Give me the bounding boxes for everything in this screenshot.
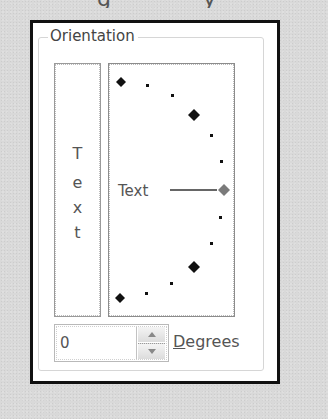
marker-neg90-icon — [115, 293, 125, 303]
degrees-decrement-button[interactable] — [138, 343, 165, 359]
orientation-group: Orientation T e x t — [38, 37, 264, 371]
marker-neg45-icon — [188, 261, 200, 273]
cropped-heading-fragment: g y — [0, 0, 328, 8]
vertical-text-letter: t — [55, 224, 100, 242]
degrees-label-mnemonic: D — [173, 332, 185, 351]
vertical-text-letter: x — [55, 199, 100, 217]
orientation-group-label: Orientation — [48, 26, 138, 46]
spin-up-arrow-icon — [148, 332, 156, 337]
dial-text-label: Text — [118, 182, 148, 200]
cropped-glyph-y: y — [203, 0, 216, 8]
marker-90-icon — [116, 77, 126, 87]
degrees-increment-button[interactable] — [138, 327, 165, 342]
degrees-label-rest: egrees — [185, 332, 239, 351]
marker-45-icon — [188, 109, 200, 121]
vertical-text-letter: T — [55, 145, 100, 163]
cropped-glyph-g: g — [97, 0, 111, 8]
orientation-panel-highlight-frame: Orientation T e x t — [30, 20, 280, 384]
vertical-text-letter: e — [55, 174, 100, 192]
degrees-input[interactable] — [60, 334, 130, 352]
degrees-label: Degrees — [173, 332, 240, 352]
vertical-text-toggle[interactable]: T e x t — [54, 63, 101, 317]
selected-angle-handle-icon[interactable] — [218, 184, 230, 196]
degrees-spin-buttons — [136, 327, 166, 359]
degrees-spinner — [54, 324, 169, 362]
orientation-dial[interactable]: Text — [108, 63, 235, 317]
spin-down-arrow-icon — [148, 349, 156, 354]
